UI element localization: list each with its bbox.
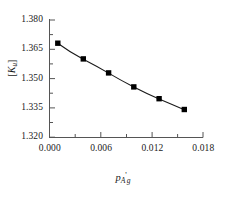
y-tick-label-1320: 1.320: [9, 132, 43, 142]
y-major-ticks: [50, 20, 56, 137]
x-tick-label-0018: 0.018: [183, 144, 223, 154]
x-tick-label-0006: 0.006: [81, 144, 121, 154]
y-axis-bracket-close: ]: [6, 60, 17, 63]
data-point: [131, 84, 136, 89]
data-point: [156, 96, 161, 101]
data-point: [81, 56, 86, 61]
x-axis-title: pA'g: [88, 172, 158, 185]
data-line: [58, 44, 184, 110]
data-markers: [55, 41, 187, 113]
data-point: [55, 41, 60, 46]
x-tick-label-0000: 0.000: [30, 144, 70, 154]
x-minor-ticks: [75, 134, 177, 138]
y-tick-label-1335: 1.335: [9, 103, 43, 113]
y-axis-symbol: K: [6, 67, 17, 74]
y-axis-subscript: u: [11, 63, 19, 67]
plot-area: [0, 0, 230, 199]
y-axis-title: [Ku]: [7, 38, 19, 98]
data-point: [106, 70, 111, 75]
y-tick-label-1380: 1.380: [9, 15, 43, 25]
y-axis-bracket-open: [: [6, 73, 17, 76]
chart-figure: 1.380 1.365 1.350 1.335 1.320 0.000 0.00…: [0, 0, 230, 199]
x-axis-subscript-second: g: [127, 176, 131, 185]
data-point: [182, 107, 187, 112]
x-tick-label-0012: 0.012: [132, 144, 172, 154]
